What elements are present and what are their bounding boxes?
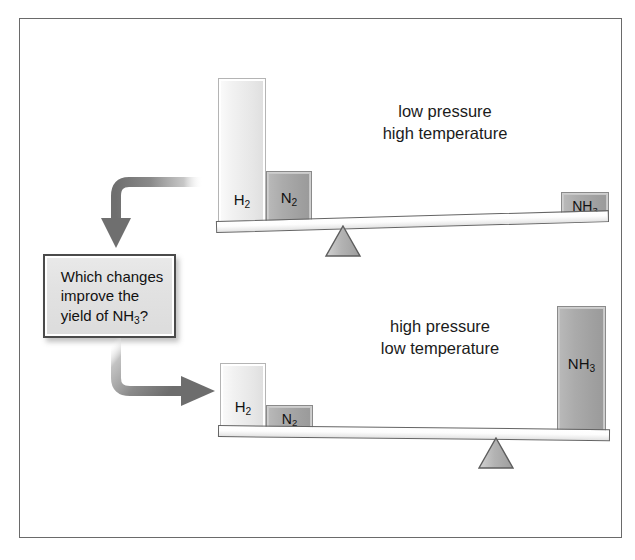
top-block-h2-label: H2 [234,192,251,207]
question-line-2: improve the [61,286,164,306]
figure-root: H2 N2 NH3 low pressure high temperature [0,0,635,560]
top-block-h2: H2 [218,78,266,224]
top-fulcrum [324,225,362,258]
bottom-block-nh3: NH3 [558,307,605,432]
bottom-block-n2-label: N2 [282,412,297,426]
top-conditions-caption: low pressure high temperature [355,100,535,145]
top-block-n2: N2 [267,172,311,224]
bottom-block-h2: H2 [220,363,266,431]
bottom-conditions-caption: high pressure low temperature [350,315,530,360]
top-condition-line-1: low pressure [355,100,535,122]
question-callout: Which changes improve the yield of NH3? [43,254,176,338]
question-callout-text: Which changes improve the yield of NH3? [56,267,164,326]
bottom-block-h2-label: H2 [235,399,252,414]
bottom-condition-line-2: low temperature [350,337,530,359]
top-condition-line-2: high temperature [355,122,535,144]
curved-arrow-down-icon [95,170,205,260]
top-block-n2-label: N2 [281,190,298,205]
curved-arrow-right-icon [95,336,225,406]
question-line-3: yield of NH3? [61,306,164,326]
bottom-block-nh3-label: NH3 [568,356,595,371]
bottom-condition-line-1: high pressure [350,315,530,337]
question-line-1: Which changes [61,267,164,287]
bottom-fulcrum [477,437,515,470]
